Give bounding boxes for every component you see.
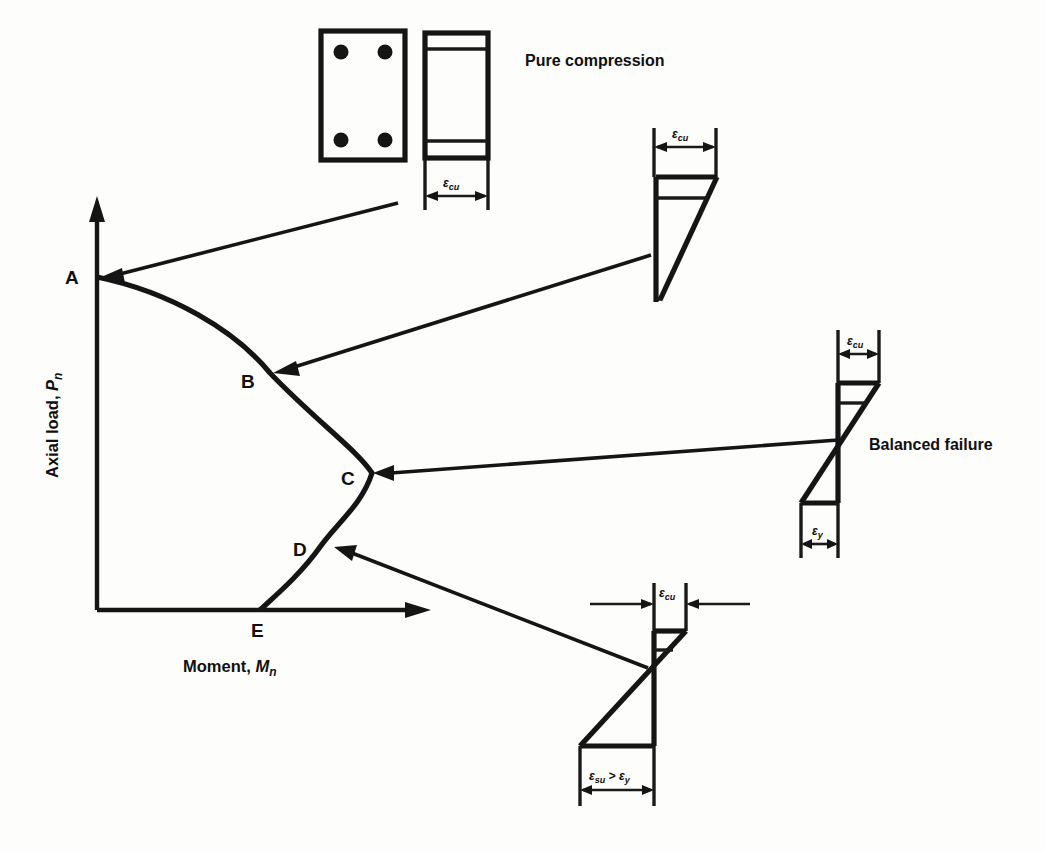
leader-to-point-b	[273, 255, 651, 376]
figure-root: A B C D E Axial load, Pn Moment, Mn	[0, 0, 1045, 851]
interaction-diagram-svg: A B C D E Axial load, Pn Moment, Mn	[0, 0, 1045, 851]
point-d-bottom-dim-arrow-right	[642, 785, 654, 795]
interaction-curve	[97, 277, 372, 610]
y-axis-title: Axial load, Pn	[43, 373, 65, 478]
point-d-bottom-dim-label: εsu > εy	[589, 769, 631, 785]
balanced-failure-strain-diagram: εcu εy	[801, 330, 879, 558]
leader-c-arrowhead	[373, 465, 394, 481]
leader-a-line	[116, 203, 398, 275]
balanced-top-dim-subscript: cu	[853, 340, 864, 350]
balanced-top-dim-arrow-left	[838, 349, 850, 359]
point-d-bottom-dim-subscript-2: y	[624, 775, 631, 785]
point-b-strain-diagram: εcu	[654, 127, 717, 302]
pure-compression-dim-subscript: cu	[449, 182, 460, 192]
x-axis-title: Moment, Mn	[183, 657, 277, 679]
rebar-dot-top-right	[378, 45, 393, 60]
chart-axes	[89, 196, 431, 618]
point-b-dim-label: εcu	[672, 127, 689, 143]
y-axis-title-text: Axial load,	[43, 391, 61, 478]
leader-to-point-c	[373, 440, 838, 481]
leader-to-point-a	[99, 203, 398, 283]
point-b-dim-arrow-right	[703, 142, 716, 152]
point-b-label: B	[241, 371, 255, 392]
y-axis-arrowhead	[89, 196, 105, 222]
point-d-top-dim-arrow-right	[686, 599, 699, 609]
x-axis-title-subscript: n	[269, 665, 276, 679]
x-axis-arrowhead	[405, 602, 431, 618]
point-d-top-dim-label: εcu	[659, 586, 676, 602]
point-d-top-dim-subscript: cu	[665, 592, 676, 602]
x-axis-title-symbol: M	[255, 657, 270, 675]
point-e-label: E	[251, 620, 264, 641]
pure-compression-dim-arrow-left	[425, 191, 438, 201]
point-b-dim-subscript: cu	[678, 133, 689, 143]
leader-c-line	[391, 440, 838, 473]
point-d-label: D	[293, 539, 307, 560]
balanced-bottom-dim-subscript: y	[817, 530, 824, 540]
leader-b-line	[291, 255, 651, 368]
rebar-dot-bottom-right	[378, 133, 393, 148]
leader-b-arrowhead	[273, 361, 300, 376]
balanced-failure-callout-label: Balanced failure	[869, 436, 993, 453]
point-c-label: C	[341, 468, 355, 489]
interaction-curve-path	[97, 277, 372, 610]
axis-titles: Axial load, Pn Moment, Mn	[43, 373, 277, 679]
leader-to-point-d	[334, 545, 648, 668]
rebar-dot-top-left	[334, 45, 349, 60]
point-a-label: A	[65, 267, 79, 288]
point-d-bottom-dim-arrow-left	[580, 785, 592, 795]
point-b-hypotenuse	[660, 177, 717, 300]
x-axis-title-text: Moment,	[183, 657, 255, 675]
pure-compression-dim-arrow-right	[475, 191, 488, 201]
point-d-bottom-dim-subscript-1: su	[595, 775, 606, 785]
point-d-bottom-dim-relation: >	[605, 769, 619, 783]
cross-section	[321, 31, 405, 160]
pure-compression-callout-label: Pure compression	[525, 52, 665, 69]
point-d-top-dim-arrow-left	[641, 599, 654, 609]
balanced-bottom-dim-label: εy	[812, 524, 824, 540]
point-b-dim-arrow-left	[654, 142, 667, 152]
pure-compression-block-outline	[425, 33, 488, 158]
point-d-strain-diagram: εcu εsu > εy	[580, 583, 750, 806]
pure-compression-dim-label: εcu	[443, 176, 460, 192]
balanced-top-dim-label: εcu	[847, 334, 864, 350]
rebar-dot-bottom-left	[334, 133, 349, 148]
balanced-top-dim-arrow-right	[867, 349, 879, 359]
y-axis-title-subscript: n	[51, 373, 65, 380]
leader-d-arrowhead	[334, 545, 357, 561]
pure-compression-strain-block: εcu	[425, 33, 488, 210]
